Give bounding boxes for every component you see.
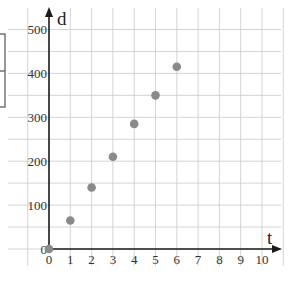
- data-point: [66, 216, 75, 225]
- x-tick-label: 6: [174, 252, 181, 267]
- data-point: [87, 183, 96, 192]
- y-tick-label: 500: [28, 22, 48, 37]
- data-point: [109, 153, 118, 162]
- axes: [45, 7, 282, 253]
- partial-table-box: [0, 34, 5, 107]
- data-point: [130, 120, 139, 129]
- x-tick-label: 0: [46, 252, 53, 267]
- y-tick-label: 100: [28, 198, 48, 213]
- data-point: [173, 63, 182, 72]
- y-tick-label: 300: [28, 110, 48, 125]
- x-tick-label: 10: [256, 252, 269, 267]
- data-point: [45, 245, 54, 254]
- y-tick-label: 200: [28, 154, 48, 169]
- x-tick-label: 5: [152, 252, 159, 267]
- y-axis-label: d: [57, 8, 67, 29]
- x-tick-label: 4: [131, 252, 138, 267]
- x-tick-label: 1: [67, 252, 74, 267]
- y-tick-label: 400: [28, 66, 48, 81]
- x-axis-tick-labels: 012345678910: [46, 252, 269, 267]
- x-tick-label: 3: [110, 252, 117, 267]
- x-tick-label: 7: [195, 252, 202, 267]
- y-axis-arrow-icon: [45, 7, 53, 17]
- x-tick-label: 8: [216, 252, 223, 267]
- scatter-chart: 0100200300400500 012345678910 d t: [0, 0, 291, 282]
- x-tick-label: 2: [88, 252, 95, 267]
- x-axis-label: t: [267, 227, 273, 248]
- data-point: [151, 91, 160, 100]
- x-tick-label: 9: [237, 252, 244, 267]
- x-axis-arrow-icon: [272, 245, 282, 253]
